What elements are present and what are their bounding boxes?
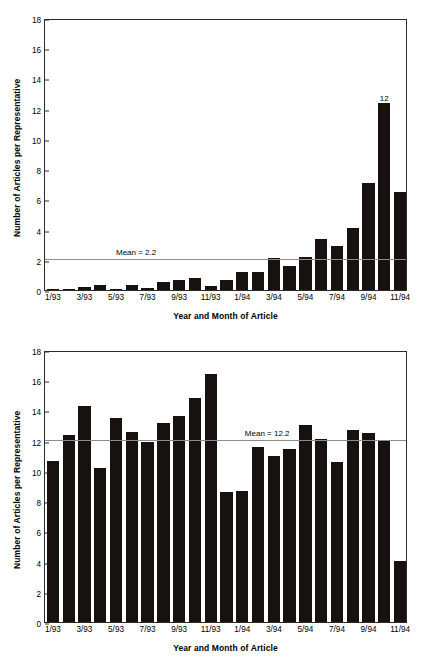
y-axis-tick-label: 2 bbox=[36, 589, 41, 598]
chart-noncampaign-coverage: Noncampaign CoverageNumber of Articles p… bbox=[0, 332, 421, 664]
x-axis-tick-label: 11/94 bbox=[390, 293, 410, 302]
bar bbox=[63, 435, 75, 622]
y-axis-tick-label: 2 bbox=[36, 257, 41, 266]
bar bbox=[189, 278, 201, 290]
bar bbox=[94, 285, 106, 290]
x-axis-tick-label: 5/93 bbox=[108, 293, 124, 302]
bar bbox=[362, 183, 374, 290]
bar bbox=[220, 492, 232, 622]
bar bbox=[236, 272, 248, 290]
x-axis-tick-label: 5/94 bbox=[297, 293, 313, 302]
bar bbox=[331, 462, 343, 622]
x-axis-tick-label: 7/94 bbox=[329, 625, 345, 634]
x-axis-tick-label: 11/94 bbox=[390, 625, 410, 634]
bar-value-label: 12 bbox=[380, 94, 389, 103]
bar bbox=[205, 286, 217, 290]
x-axis-tick-label: 11/93 bbox=[201, 293, 221, 302]
x-axis-tick-label: 9/93 bbox=[171, 293, 187, 302]
bar bbox=[126, 285, 138, 290]
bar bbox=[110, 289, 122, 291]
x-axis-tick-label: 7/94 bbox=[329, 293, 345, 302]
plot-area: 024681012141618Mean = 2.2121/933/935/937… bbox=[44, 19, 407, 291]
x-axis-tick-label: 1/94 bbox=[234, 625, 250, 634]
x-axis-tick-label: 9/93 bbox=[171, 625, 187, 634]
bar bbox=[110, 418, 122, 622]
y-axis-tick-label: 14 bbox=[32, 76, 41, 85]
bar bbox=[94, 468, 106, 622]
x-axis-label: Year and Month of Article bbox=[44, 311, 407, 321]
x-axis-tick-label: 1/93 bbox=[45, 625, 61, 634]
bar bbox=[126, 432, 138, 622]
bar bbox=[283, 449, 295, 622]
y-axis-tick-label: 6 bbox=[36, 529, 41, 538]
bar bbox=[220, 280, 232, 290]
y-axis-label: Number of Articles per Representative bbox=[12, 411, 22, 569]
bar bbox=[236, 491, 248, 622]
bar bbox=[378, 103, 390, 290]
bar bbox=[315, 439, 327, 622]
bar bbox=[47, 289, 59, 290]
y-axis-tick-label: 8 bbox=[36, 167, 41, 176]
bar bbox=[78, 287, 90, 290]
bar-series bbox=[45, 20, 406, 290]
x-axis-tick-label: 11/93 bbox=[201, 625, 221, 634]
y-axis-tick-label: 8 bbox=[36, 499, 41, 508]
x-axis-tick-label: 1/94 bbox=[234, 293, 250, 302]
bar bbox=[189, 398, 201, 622]
y-axis-tick-label: 0 bbox=[36, 620, 41, 629]
bar bbox=[299, 425, 311, 622]
y-axis-tick-label: 10 bbox=[32, 468, 41, 477]
bar bbox=[268, 258, 280, 290]
y-axis-label: Number of Articles per Representative bbox=[12, 79, 22, 237]
bar bbox=[141, 442, 153, 622]
bar bbox=[252, 447, 264, 622]
x-axis-tick-label: 9/94 bbox=[361, 625, 377, 634]
bar bbox=[173, 280, 185, 290]
bar bbox=[78, 406, 90, 622]
x-axis-tick-label: 1/93 bbox=[45, 293, 61, 302]
y-axis-tick-label: 16 bbox=[32, 46, 41, 55]
y-axis-tick-label: 16 bbox=[32, 378, 41, 387]
y-axis-tick-label: 18 bbox=[32, 16, 41, 25]
bar bbox=[394, 192, 406, 290]
x-axis-tick-label: 5/94 bbox=[297, 625, 313, 634]
bar bbox=[205, 374, 217, 622]
mean-line-label: Mean = 2.2 bbox=[114, 248, 158, 257]
y-axis-tick-label: 14 bbox=[32, 408, 41, 417]
x-axis-tick-label: 9/94 bbox=[361, 293, 377, 302]
y-axis-tick-label: 12 bbox=[32, 106, 41, 115]
y-axis-tick-label: 6 bbox=[36, 197, 41, 206]
x-axis-tick-label: 7/93 bbox=[140, 625, 156, 634]
x-axis-tick-label: 5/93 bbox=[108, 625, 124, 634]
bar bbox=[47, 461, 59, 622]
bar bbox=[63, 289, 75, 290]
chart-campaign-coverage: Campaign CoverageNumber of Articles per … bbox=[0, 0, 421, 332]
y-axis-tick-label: 10 bbox=[32, 136, 41, 145]
bar bbox=[315, 239, 327, 290]
y-axis-tick-label: 12 bbox=[32, 438, 41, 447]
x-axis-label: Year and Month of Article bbox=[44, 643, 407, 653]
y-axis-tick-label: 18 bbox=[32, 348, 41, 357]
mean-line-label: Mean = 12.2 bbox=[243, 429, 292, 438]
bar-series bbox=[45, 352, 406, 622]
bar bbox=[283, 266, 295, 290]
y-axis-tick-label: 0 bbox=[36, 288, 41, 297]
plot-area: 024681012141618Mean = 12.21/933/935/937/… bbox=[44, 351, 407, 623]
x-axis-tick-label: 3/93 bbox=[76, 625, 92, 634]
x-axis-tick-label: 7/93 bbox=[140, 293, 156, 302]
mean-line bbox=[45, 440, 406, 441]
bar bbox=[347, 430, 359, 622]
bar bbox=[362, 433, 374, 622]
bar bbox=[252, 272, 264, 290]
y-axis-tick-label: 4 bbox=[36, 227, 41, 236]
x-axis-tick-label: 3/94 bbox=[266, 625, 282, 634]
bar bbox=[157, 423, 169, 622]
bar bbox=[173, 416, 185, 622]
bar bbox=[141, 288, 153, 290]
bar bbox=[378, 440, 390, 622]
bar bbox=[268, 456, 280, 622]
bar bbox=[331, 246, 343, 290]
x-axis-tick-label: 3/94 bbox=[266, 293, 282, 302]
mean-line bbox=[45, 259, 406, 260]
bar bbox=[394, 561, 406, 622]
